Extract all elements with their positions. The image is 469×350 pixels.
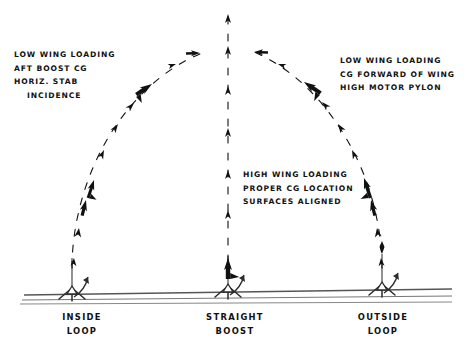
caption-line: STRAIGHT: [175, 310, 295, 324]
outside-loop-annotation: LOW WING LOADING CG FORWARD OF WING HIGH…: [340, 54, 455, 95]
annotation-line: HORIZ. STAB: [14, 75, 115, 89]
annotation-line: INCIDENCE: [14, 89, 115, 103]
caption-inside-loop: INSIDE LOOP: [22, 310, 142, 338]
rocket-boost-trajectory-diagram: LOW WING LOADING AFT BOOST CG HORIZ. STA…: [0, 0, 469, 350]
straight-boost-annotation: HIGH WING LOADING PROPER CG LOCATION SUR…: [243, 168, 353, 209]
caption-line: LOOP: [323, 324, 443, 338]
annotation-line: AFT BOOST CG: [14, 62, 115, 76]
annotation-line: LOW WING LOADING: [340, 54, 455, 68]
annotation-line: CG FORWARD OF WING: [340, 68, 455, 82]
caption-straight-boost: STRAIGHT BOOST: [175, 310, 295, 338]
caption-line: LOOP: [22, 324, 142, 338]
annotation-line: HIGH WING LOADING: [243, 168, 353, 182]
caption-line: INSIDE: [22, 310, 142, 324]
launch-pad-outside: [369, 241, 399, 297]
caption-line: OUTSIDE: [323, 310, 443, 324]
annotation-line: LOW WING LOADING: [14, 48, 115, 62]
caption-outside-loop: OUTSIDE LOOP: [323, 310, 443, 338]
trajectory-straight-boost: [224, 14, 239, 279]
inside-loop-annotation: LOW WING LOADING AFT BOOST CG HORIZ. STA…: [14, 48, 115, 102]
annotation-line: SURFACES ALIGNED: [243, 195, 353, 209]
caption-line: BOOST: [175, 324, 295, 338]
annotation-line: PROPER CG LOCATION: [243, 182, 353, 196]
annotation-line: HIGH MOTOR PYLON: [340, 81, 455, 95]
